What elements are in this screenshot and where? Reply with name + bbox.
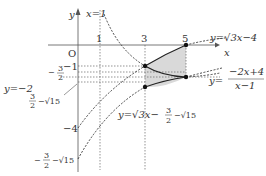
- x-axis-label: x: [224, 47, 230, 58]
- guide-lines: [60, 10, 220, 170]
- point-5-mid: [184, 75, 188, 79]
- shifted-curve-label-num: 3: [166, 106, 171, 115]
- shifted-curve-dashed-left: [78, 87, 145, 159]
- diagram-canvas: y x O 1 3 5 −1 − 3 2 −4 x=1 y=−2 3 2 −√1…: [0, 0, 266, 176]
- sqrt-curve-label: y=√3x−4: [209, 32, 257, 43]
- y-tick-minus-1: −1: [63, 61, 78, 72]
- upper-value-den: 2: [30, 101, 35, 110]
- hyperbola-label-den: x−1: [235, 80, 255, 91]
- x-tick-5: 5: [182, 33, 188, 44]
- lower-value-rest: −√15: [52, 156, 74, 165]
- upper-value-rest: −√15: [38, 97, 60, 106]
- lower-value-num: 3: [44, 151, 49, 160]
- y-axis-arrow-icon: [76, 8, 81, 15]
- x-tick-1: 1: [96, 33, 102, 44]
- y-tick-frac-num: 3: [58, 64, 63, 73]
- shifted-curve-label-rest: −√15: [174, 111, 196, 120]
- point-3-lower: [143, 85, 147, 89]
- y-axis-label: y: [68, 9, 75, 20]
- shifted-curve-label-den: 2: [166, 116, 171, 125]
- hyperbola-dashed-left: [104, 14, 145, 66]
- x-tick-3: 3: [141, 33, 147, 44]
- asymptote-y-2-label: y=−2: [3, 83, 33, 94]
- lower-value-sign: −: [34, 156, 41, 165]
- y-tick-frac-den: 2: [58, 73, 63, 82]
- label-pointer: [64, 84, 77, 95]
- point-3-upper: [143, 64, 147, 68]
- hyperbola-label-prefix: y=: [208, 75, 223, 86]
- shifted-curve-label-prefix: y=√3x−: [117, 109, 159, 120]
- y-tick-minus-4: −4: [63, 123, 78, 134]
- lower-value-den: 2: [44, 161, 49, 170]
- asymptote-x1-label: x=1: [86, 8, 106, 19]
- hyperbola-label-num: −2x+4: [229, 66, 264, 77]
- origin-label: O: [68, 48, 76, 59]
- x-axis-arrow-icon: [215, 43, 220, 48]
- upper-value-num: 3: [30, 92, 35, 101]
- y-tick-frac-sign: −: [48, 68, 55, 77]
